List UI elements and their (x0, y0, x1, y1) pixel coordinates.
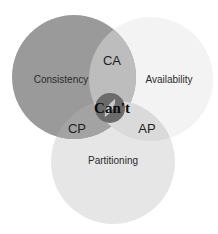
ca-label: CA (103, 53, 121, 68)
partitioning-label: Partitioning (88, 155, 138, 166)
cp-label: CP (68, 121, 86, 136)
availability-label: Availability (145, 74, 192, 85)
cant-label: Can't (94, 100, 130, 116)
consistency-label: Consistency (34, 74, 88, 85)
cap-theorem-venn-diagram: Consistency Availability Partitioning CA… (0, 0, 218, 234)
ap-label: AP (138, 121, 155, 136)
